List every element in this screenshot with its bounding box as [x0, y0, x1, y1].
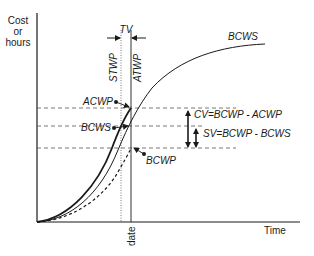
date-label: date	[126, 226, 137, 246]
earned-value-diagram: Cost or hours Time TV STWP ATWP ACWP BCW…	[0, 0, 314, 256]
cv-label: CV=BCWP - ACWP	[194, 109, 282, 120]
bcwp-pointer-arrow	[134, 148, 144, 154]
acwp-label: ACWP	[82, 96, 113, 107]
sv-label: SV=BCWP - BCWS	[203, 128, 291, 139]
y-axis-label-line3: hours	[5, 37, 30, 48]
bcws-label: BCWS	[81, 122, 111, 133]
acwp-pointer-arrow	[116, 102, 129, 107]
x-axis-label: Time	[264, 225, 286, 236]
tv-label: TV	[120, 24, 134, 35]
bcws-top-label: BCWS	[228, 31, 258, 42]
bcwp-label: BCWP	[146, 155, 176, 166]
y-axis-label-line2: or	[14, 26, 24, 37]
atwp-label: ATWP	[132, 54, 143, 83]
y-axis-label-line1: Cost	[8, 15, 29, 26]
bcwp-curve	[37, 148, 131, 222]
stwp-label: STWP	[108, 53, 119, 82]
